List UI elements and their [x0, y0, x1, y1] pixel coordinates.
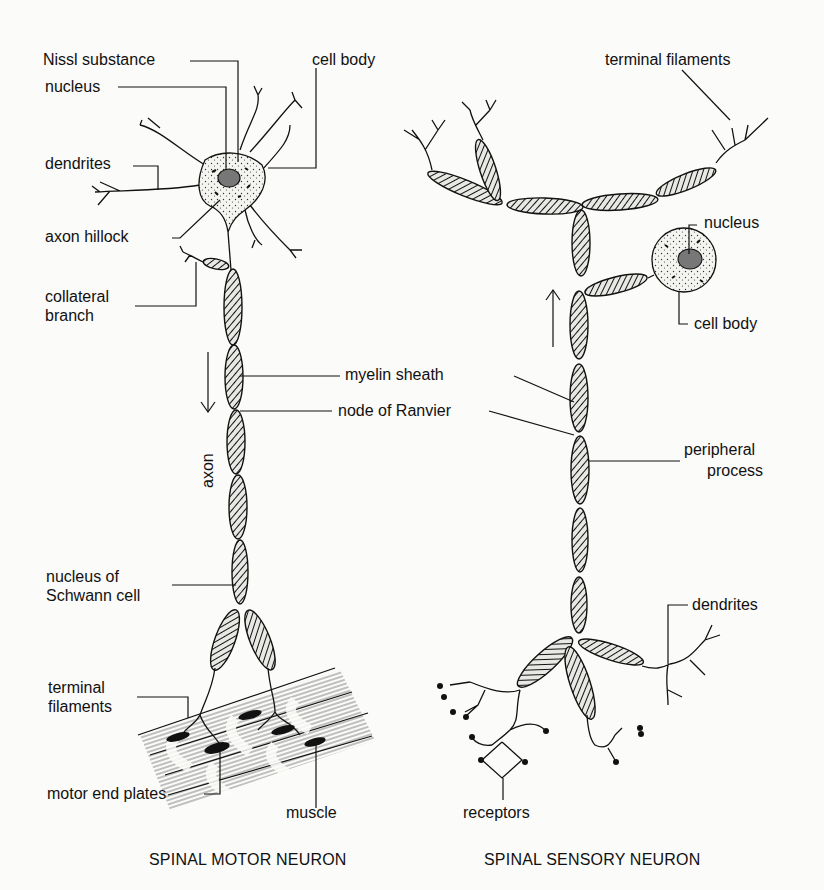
label-motor-dendrites: dendrites — [45, 155, 111, 173]
label-sensory-nucleus: nucleus — [704, 214, 759, 232]
motor-nucleus — [218, 169, 240, 187]
label-schwann-1: nucleus of — [46, 568, 119, 586]
label-motor-nucleus: nucleus — [45, 78, 100, 96]
label-motor-terminal-2: filaments — [48, 698, 112, 716]
label-process: process — [707, 462, 763, 480]
neuron-diagram: Nissl substance nucleus cell body dendri… — [0, 0, 824, 890]
down-arrow-icon — [201, 352, 215, 412]
label-myelin-sheath: myelin sheath — [345, 366, 444, 384]
sensory-neuron — [404, 70, 768, 800]
label-schwann-2: Schwann cell — [46, 587, 140, 605]
label-sensory-terminal-filaments: terminal filaments — [605, 51, 730, 69]
label-motor-terminal-1: terminal — [48, 679, 105, 697]
label-sensory-cell-body: cell body — [694, 315, 757, 333]
motor-neuron — [92, 61, 375, 810]
title-spinal-sensory-neuron: SPINAL SENSORY NEURON — [484, 851, 700, 869]
label-motor-cell-body: cell body — [312, 51, 375, 69]
label-sensory-dendrites: dendrites — [692, 596, 758, 614]
label-muscle: muscle — [286, 804, 337, 822]
title-spinal-motor-neuron: SPINAL MOTOR NEURON — [149, 851, 347, 869]
label-peripheral: peripheral — [684, 441, 755, 459]
up-arrow-icon — [546, 290, 560, 347]
sensory-nucleus — [678, 249, 702, 269]
label-axon-hillock: axon hillock — [45, 228, 129, 246]
label-branch: branch — [45, 307, 94, 325]
label-nissl-substance: Nissl substance — [43, 51, 155, 69]
muscle-fibers — [138, 668, 375, 810]
label-collateral: collateral — [45, 288, 109, 306]
label-axon: axon — [199, 453, 217, 488]
label-motor-end-plates: motor end plates — [47, 785, 166, 803]
label-node-of-ranvier: node of Ranvier — [338, 402, 451, 420]
label-receptors: receptors — [463, 804, 530, 822]
motor-cell-body — [199, 153, 265, 232]
